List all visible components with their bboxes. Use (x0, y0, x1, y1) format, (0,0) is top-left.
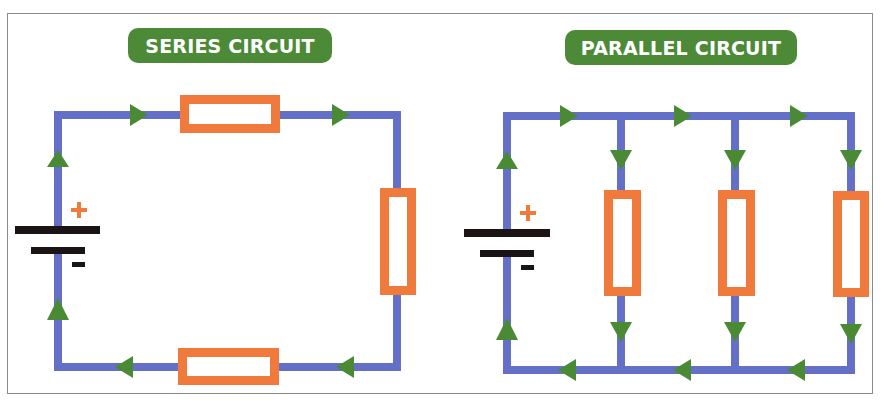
series-resistor-right (385, 193, 412, 291)
arrow-right-icon (560, 105, 578, 127)
arrow-down-icon (610, 150, 632, 170)
arrow-down-icon (840, 150, 862, 170)
arrow-right-icon (674, 105, 692, 127)
arrow-up-icon (496, 151, 518, 169)
parallel-resistor-2 (723, 195, 751, 292)
parallel-circuit (464, 105, 865, 381)
arrow-down-icon (724, 322, 746, 342)
series-circuit (15, 100, 412, 381)
parallel-resistor-1 (609, 195, 637, 292)
arrow-right-icon (790, 105, 808, 127)
series-wires (58, 115, 397, 367)
circuit-diagrams (0, 0, 882, 404)
minus-icon (521, 265, 534, 270)
parallel-current-arrows (496, 105, 862, 381)
series-resistor-bottom (183, 353, 275, 381)
series-resistors (183, 100, 412, 381)
arrow-left-icon (558, 359, 576, 381)
arrow-down-icon (724, 150, 746, 170)
parallel-resistor-3 (838, 196, 865, 293)
parallel-wires (507, 116, 851, 370)
arrow-down-icon (840, 324, 862, 344)
series-resistor-top (185, 100, 276, 129)
minus-icon (72, 262, 85, 267)
arrow-left-icon (336, 356, 354, 378)
arrow-up-icon (496, 318, 518, 340)
arrow-down-icon (610, 322, 632, 342)
series-current-arrows (47, 104, 354, 378)
arrow-up-icon (47, 150, 69, 167)
arrow-left-icon (787, 359, 805, 381)
arrow-left-icon (673, 359, 691, 381)
parallel-resistors (609, 195, 865, 293)
arrow-up-icon (47, 298, 69, 320)
arrow-right-icon (130, 104, 148, 126)
arrow-right-icon (332, 104, 350, 126)
arrow-left-icon (115, 356, 133, 378)
